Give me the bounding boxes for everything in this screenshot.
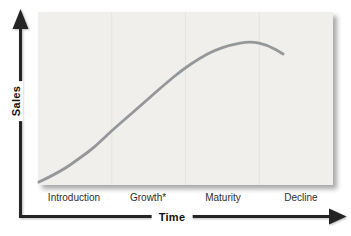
x-axis-label: Time: [152, 211, 193, 223]
product-life-cycle-chart: Sales Time Introduction Growth* Maturity…: [0, 0, 351, 236]
phase-labels: Introduction Growth* Maturity Decline: [38, 192, 333, 206]
y-axis-arrow-icon: [13, 9, 29, 29]
x-axis-arrow-icon: [329, 209, 347, 225]
phase-label-introduction: Introduction: [48, 192, 100, 203]
y-axis-label: Sales: [9, 81, 23, 121]
phase-label-maturity: Maturity: [205, 192, 241, 203]
phase-label-decline: Decline: [284, 192, 317, 203]
phase-label-growth: Growth*: [130, 192, 166, 203]
